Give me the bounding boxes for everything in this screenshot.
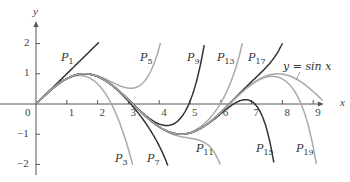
curve-p19: [36, 74, 316, 164]
x-tick-2: 2: [100, 107, 106, 118]
label-p9: P9: [187, 52, 200, 66]
y-axis-arrow-icon: [34, 21, 39, 27]
label-p5: P5: [140, 52, 153, 66]
x-tick-8: 8: [284, 107, 290, 118]
x-tick-7: 7: [254, 107, 260, 118]
label-p1: P1: [61, 52, 74, 66]
y-tick-1: 1: [24, 67, 30, 78]
y-tick-minus-1: −1: [17, 128, 29, 139]
label-p15: P15: [256, 143, 274, 157]
label-p19: P19: [296, 143, 314, 157]
label-p3: P3: [115, 153, 128, 167]
label-p11: P11: [196, 143, 214, 157]
y-tick-2: 2: [24, 37, 30, 48]
x-tick-9: 9: [315, 107, 321, 118]
x-tick-4: 4: [161, 107, 167, 118]
x-axis-label: x: [340, 97, 345, 108]
y-tick-minus-2: −2: [17, 158, 29, 169]
x-tick-6: 6: [223, 107, 229, 118]
label-p17: P17: [248, 52, 266, 66]
sin-label-leader: [296, 72, 300, 80]
origin-label: 0: [25, 107, 31, 118]
label-p13: P13: [217, 52, 235, 66]
label-sin: y = sin x: [283, 61, 331, 72]
curve-p15: [36, 74, 274, 163]
label-p7: P7: [147, 153, 160, 167]
x-tick-5: 5: [192, 107, 198, 118]
x-tick-1: 1: [69, 107, 75, 118]
x-tick-3: 3: [130, 107, 136, 118]
y-axis-label: y: [33, 6, 38, 17]
